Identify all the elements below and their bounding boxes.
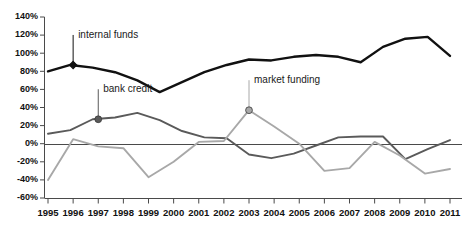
x-tick-label: 1995 [37,207,59,218]
chart-container: 140%120%100%80%60%40%20%0%-20%-40%-60% 1… [0,0,470,236]
x-tick-label: 2009 [389,207,410,218]
x-tick-label: 1999 [138,207,159,218]
x-tick-label: 2004 [264,207,286,218]
x-tick-label: 2005 [289,207,311,218]
x-tick-label: 2001 [188,207,210,218]
y-tick-label: 140% [15,11,38,21]
x-tick-label: 1997 [88,207,109,218]
y-tick-label: 0% [25,138,38,148]
y-tick-label: 100% [15,48,38,58]
y-tick-label: -40% [17,174,38,184]
y-tick-label: 60% [20,84,38,94]
annotation-label-market-funding: market funding [254,74,320,85]
y-tick-label: 120% [15,29,38,39]
annotation-marker-bank-credit [95,116,102,123]
x-tick-label: 2006 [314,207,335,218]
x-tick-label: 2010 [414,207,435,218]
x-tick-label: 2008 [364,207,385,218]
x-tick-label: 2002 [213,207,234,218]
x-tick-label: 1996 [63,207,84,218]
annotation-label-internal-funds: internal funds [78,29,138,40]
annotation-marker-market-funding [246,107,253,114]
x-tick-label: 1998 [113,207,134,218]
y-tick-label: 40% [20,102,38,112]
y-tick-label: -60% [17,192,38,202]
annotation-label-bank-credit: bank credit [103,83,152,94]
x-axis-labels: 1995199619971998199920002001200220032004… [37,207,461,218]
x-tick-label: 2003 [238,207,259,218]
line-chart: 140%120%100%80%60%40%20%0%-20%-40%-60% 1… [0,0,470,236]
y-tick-label: 20% [20,120,38,130]
y-tick-label: 80% [20,66,38,76]
x-tick-label: 2007 [339,207,360,218]
y-tick-label: -20% [17,156,38,166]
x-tick-label: 2000 [163,207,184,218]
x-tick-label: 2011 [440,207,461,218]
